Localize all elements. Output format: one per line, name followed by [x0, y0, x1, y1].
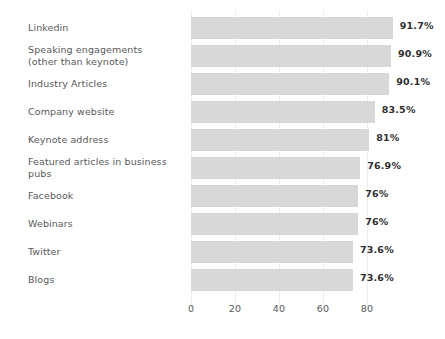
- bar: [191, 101, 375, 123]
- bar-track: [191, 213, 393, 235]
- bar-value-label: 76%: [365, 210, 388, 232]
- bar: [191, 157, 360, 179]
- bar: [191, 73, 389, 95]
- chart-row: Facebook76%: [0, 182, 445, 210]
- category-label: Keynote address: [28, 126, 186, 154]
- category-label: Featured articles in business pubs: [28, 154, 186, 182]
- x-axis-tick-label: 80: [361, 303, 374, 314]
- chart-row: Blogs73.6%: [0, 266, 445, 294]
- bar-track: [191, 157, 393, 179]
- bar-value-label: 91.7%: [400, 14, 434, 36]
- category-label: Linkedin: [28, 14, 186, 42]
- bar-value-label: 90.1%: [396, 70, 430, 92]
- chart-row: Webinars76%: [0, 210, 445, 238]
- bar-value-label: 83.5%: [382, 98, 416, 120]
- bar: [191, 241, 353, 263]
- bar: [191, 129, 369, 151]
- category-label: Facebook: [28, 182, 186, 210]
- category-label: Speaking engagements (other than keynote…: [28, 42, 186, 70]
- chart-row: Speaking engagements (other than keynote…: [0, 42, 445, 70]
- category-label: Industry Articles: [28, 70, 186, 98]
- bar: [191, 17, 393, 39]
- bar-value-label: 73.6%: [360, 238, 394, 260]
- x-axis-tick-label: 40: [273, 303, 286, 314]
- bar-value-label: 90.9%: [398, 42, 432, 64]
- bar: [191, 213, 358, 235]
- bar-value-label: 76%: [365, 182, 388, 204]
- chart-row: Company website83.5%: [0, 98, 445, 126]
- category-label: Webinars: [28, 210, 186, 238]
- bar: [191, 269, 353, 291]
- bar-value-label: 73.6%: [360, 266, 394, 288]
- chart-row: Keynote address81%: [0, 126, 445, 154]
- chart-row: Featured articles in business pubs76.9%: [0, 154, 445, 182]
- x-axis-tick-label: 20: [229, 303, 242, 314]
- category-label: Company website: [28, 98, 186, 126]
- bar-track: [191, 129, 393, 151]
- chart-rows: Linkedin91.7%Speaking engagements (other…: [0, 0, 445, 300]
- x-axis-tick-label: 60: [317, 303, 330, 314]
- bar-track: [191, 73, 393, 95]
- bar-value-label: 76.9%: [367, 154, 401, 176]
- bar: [191, 185, 358, 207]
- bar-track: [191, 185, 393, 207]
- category-label: Twitter: [28, 238, 186, 266]
- bar-track: [191, 101, 393, 123]
- chart-row: Twitter73.6%: [0, 238, 445, 266]
- bar-value-label: 81%: [376, 126, 399, 148]
- x-axis: 020406080: [0, 303, 445, 323]
- chart-row: Linkedin91.7%: [0, 14, 445, 42]
- chart-row: Industry Articles90.1%: [0, 70, 445, 98]
- horizontal-bar-chart: Linkedin91.7%Speaking engagements (other…: [0, 0, 445, 339]
- x-axis-tick-label: 0: [188, 303, 194, 314]
- bar-track: [191, 45, 393, 67]
- bar-track: [191, 17, 393, 39]
- bar: [191, 45, 391, 67]
- category-label: Blogs: [28, 266, 186, 294]
